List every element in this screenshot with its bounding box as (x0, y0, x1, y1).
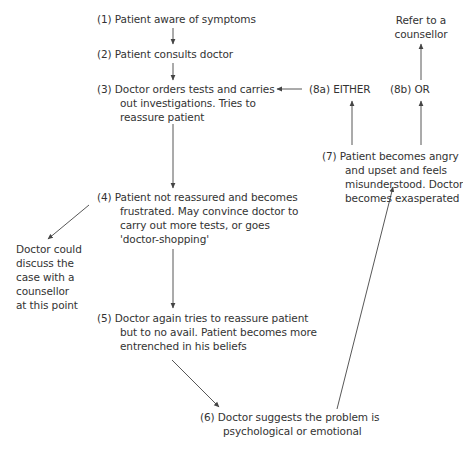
step-number: (2) (97, 47, 112, 61)
step-8b-node: (8b) OR (390, 82, 430, 96)
step-text-line: and upset and feels (322, 163, 463, 177)
side-note-line: counsellor (16, 284, 82, 298)
step-text-line: reassure patient (97, 110, 275, 124)
step-text-line: misunderstood. Doctor (322, 177, 463, 191)
step-text: Patient aware of symptoms (115, 13, 256, 25)
step-text-line: becomes exasperated (322, 191, 463, 205)
side-note-line: case with a (16, 270, 82, 284)
step-text-line: Doctor orders tests and carries (115, 83, 275, 95)
step-number: (3) (97, 82, 112, 96)
step-number: (5) (97, 311, 112, 325)
side-note-line: Doctor could (16, 242, 82, 256)
step-2-node: (2) Patient consults doctor (97, 47, 233, 61)
side-note-line: discuss the (16, 256, 82, 270)
step-number: (8a) (309, 82, 330, 96)
step-number: (7) (322, 149, 337, 163)
step-5-node: (5) Doctor again tries to reassure patie… (97, 311, 317, 353)
step-6-node: (6) Doctor suggests the problem is psych… (200, 410, 379, 438)
step-number: (6) (200, 410, 215, 424)
step-number: (8b) (390, 82, 411, 96)
step-text-line: carry out more tests, or goes (97, 218, 298, 232)
step-4-node: (4) Patient not reassured and becomes fr… (97, 190, 298, 246)
side-note-node: Doctor could discuss the case with a cou… (16, 242, 82, 312)
refer-counsellor-node: Refer to a counsellor (389, 13, 453, 41)
step-text-line: Doctor again tries to reassure patient (115, 312, 308, 324)
step-text-line: Doctor suggests the problem is (218, 411, 380, 423)
step-1-node: (1) Patient aware of symptoms (97, 12, 256, 26)
step-text-line: 'doctor-shopping' (97, 232, 298, 246)
step-text-line: but to no avail. Patient becomes more (97, 325, 317, 339)
arrow-4-to-side (48, 205, 89, 239)
step-number: (4) (97, 190, 112, 204)
step-text-line: out investigations. Tries to (97, 96, 275, 110)
step-text: OR (414, 83, 429, 95)
refer-text-line: counsellor (389, 27, 453, 41)
step-text: EITHER (333, 83, 370, 95)
step-text-line: entrenched in his beliefs (97, 339, 317, 353)
step-text-line: Patient not reassured and becomes (115, 191, 298, 203)
side-note-line: at this point (16, 298, 82, 312)
step-8a-node: (8a) EITHER (309, 82, 371, 96)
step-text-line: Patient becomes angry (340, 150, 459, 162)
arrow-5-to-6 (172, 360, 219, 407)
step-text-line: psychological or emotional (200, 424, 379, 438)
step-3-node: (3) Doctor orders tests and carries out … (97, 82, 275, 124)
arrow-6-to-7 (337, 187, 393, 409)
step-text: Patient consults doctor (115, 48, 233, 60)
step-7-node: (7) Patient becomes angry and upset and … (322, 149, 463, 205)
refer-text-line: Refer to a (389, 13, 453, 27)
step-number: (1) (97, 12, 112, 26)
step-text-line: frustrated. May convince doctor to (97, 204, 298, 218)
